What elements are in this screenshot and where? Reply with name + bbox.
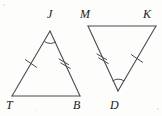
vertex-label-T: T	[6, 99, 13, 111]
tick-JT-1	[25, 60, 36, 68]
vertex-label-D: D	[110, 99, 119, 111]
triangle-MKD	[88, 26, 156, 91]
segment-MD	[88, 26, 118, 91]
scan-speck	[35, 111, 36, 112]
triangle-JTB	[12, 31, 80, 96]
geometry-figure: J T B M K D	[0, 0, 162, 116]
segment-JB	[50, 31, 80, 96]
tick-KD-1	[131, 55, 142, 63]
vertex-label-M: M	[80, 8, 90, 20]
scan-speck	[3, 4, 5, 6]
angle-mark-J	[45, 42, 57, 44]
vertex-label-B: B	[73, 99, 80, 111]
scan-speck	[157, 108, 159, 110]
vertex-label-J: J	[47, 8, 52, 20]
vertex-label-K: K	[143, 8, 151, 20]
angle-mark-D	[113, 79, 125, 81]
